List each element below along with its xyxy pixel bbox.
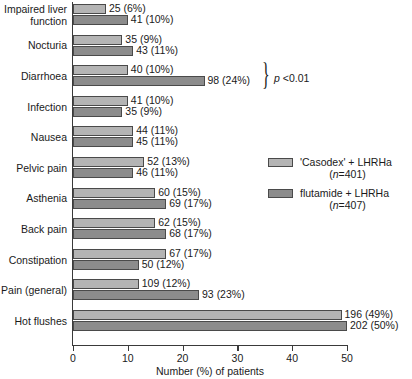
bar bbox=[73, 218, 155, 228]
legend-sample-size: (n=401) bbox=[300, 168, 395, 180]
bar-value-label: 50 (12%) bbox=[142, 259, 185, 271]
bar-value-label: 43 (11%) bbox=[136, 45, 178, 57]
bar-value-label: 68 (17%) bbox=[169, 228, 212, 240]
x-tick-label-0: 0 bbox=[70, 352, 76, 364]
bar-value-label: 46 (11%) bbox=[136, 167, 178, 179]
bar bbox=[73, 96, 128, 106]
x-tick-40 bbox=[292, 346, 293, 351]
x-tick-30 bbox=[237, 346, 238, 351]
legend-swatch bbox=[268, 189, 293, 198]
bar bbox=[73, 76, 205, 86]
category-label: Pain (general) bbox=[0, 285, 67, 297]
bar-value-label: 98 (24%) bbox=[208, 75, 251, 87]
legend-sample-size: (n=407) bbox=[300, 199, 395, 211]
bar bbox=[73, 279, 139, 289]
bar-row: 35 (9%) bbox=[73, 35, 347, 45]
legend-label: 'Casodex' + LHRHa bbox=[300, 156, 412, 168]
category-label: Pelvic pain bbox=[0, 163, 67, 175]
category-label: Infection bbox=[0, 102, 67, 114]
bar-value-label: 40 (10%) bbox=[131, 64, 174, 76]
bar bbox=[73, 35, 122, 45]
bar bbox=[73, 199, 166, 209]
bar bbox=[73, 260, 139, 270]
grouped-bar-chart: 01020304050 Impaired liver function25 (6… bbox=[0, 0, 412, 379]
x-tick-label-30: 30 bbox=[232, 352, 244, 364]
bar-row: 68 (17%) bbox=[73, 229, 347, 239]
legend-label: flutamide + LHRHa bbox=[300, 187, 412, 199]
bar bbox=[73, 15, 128, 25]
x-tick-50 bbox=[347, 346, 348, 351]
category-label: Nausea bbox=[0, 132, 67, 144]
x-axis-line bbox=[72, 345, 348, 346]
x-axis-title: Number (%) of patients bbox=[73, 365, 347, 377]
bar bbox=[73, 137, 133, 147]
bar-row: 202 (50%) bbox=[73, 321, 347, 331]
chart-legend: 'Casodex' + LHRHa(n=401)flutamide + LHRH… bbox=[268, 156, 412, 218]
bar bbox=[73, 168, 133, 178]
category-label: Diarrhoea bbox=[0, 71, 67, 83]
bar-value-label: 45 (11%) bbox=[136, 136, 178, 148]
bar-row: 93 (23%) bbox=[73, 290, 347, 300]
category-label: Constipation bbox=[0, 255, 67, 267]
bar-row: 50 (12%) bbox=[73, 260, 347, 270]
bar bbox=[73, 229, 166, 239]
bar bbox=[73, 290, 199, 300]
bar-row: 41 (10%) bbox=[73, 15, 347, 25]
bar bbox=[73, 4, 106, 14]
bar-value-label: 109 (12%) bbox=[142, 278, 190, 290]
bar-value-label: 93 (23%) bbox=[202, 289, 245, 301]
bar-row: 44 (11%) bbox=[73, 126, 347, 136]
x-tick-label-40: 40 bbox=[286, 352, 298, 364]
legend-item: 'Casodex' + LHRHa(n=401) bbox=[268, 156, 412, 180]
x-tick-label-50: 50 bbox=[341, 352, 353, 364]
bar-row: 25 (6%) bbox=[73, 4, 347, 14]
bar bbox=[73, 157, 144, 167]
bar bbox=[73, 310, 342, 320]
bar-row: 35 (9%) bbox=[73, 107, 347, 117]
x-tick-10 bbox=[128, 346, 129, 351]
bar-value-label: 41 (10%) bbox=[131, 14, 174, 26]
category-label: Nocturia bbox=[0, 40, 67, 52]
x-tick-label-10: 10 bbox=[122, 352, 134, 364]
bar-value-label: 69 (17%) bbox=[169, 198, 212, 210]
x-tick-20 bbox=[183, 346, 184, 351]
category-label: Asthenia bbox=[0, 193, 67, 205]
category-label: Hot flushes bbox=[0, 316, 67, 328]
bar-row: 67 (17%) bbox=[73, 249, 347, 259]
bar-value-label: 202 (50%) bbox=[350, 320, 398, 332]
bar bbox=[73, 46, 133, 56]
legend-swatch bbox=[268, 158, 293, 167]
bar-row: 41 (10%) bbox=[73, 96, 347, 106]
bar-row: 45 (11%) bbox=[73, 137, 347, 147]
legend-item: flutamide + LHRHa(n=407) bbox=[268, 187, 412, 211]
bar bbox=[73, 321, 347, 331]
bar bbox=[73, 107, 122, 117]
bar bbox=[73, 126, 133, 136]
category-label: Impaired liver function bbox=[0, 4, 67, 27]
bar bbox=[73, 188, 155, 198]
significance-label: p <0.01 bbox=[274, 72, 309, 84]
bar-row: 196 (49%) bbox=[73, 310, 347, 320]
x-tick-0 bbox=[73, 346, 74, 351]
bar-row: 43 (11%) bbox=[73, 46, 347, 56]
x-tick-label-20: 20 bbox=[177, 352, 189, 364]
category-label: Back pain bbox=[0, 224, 67, 236]
bar bbox=[73, 65, 128, 75]
significance-bracket: } bbox=[262, 59, 270, 91]
bar-value-label: 35 (9%) bbox=[125, 106, 162, 118]
